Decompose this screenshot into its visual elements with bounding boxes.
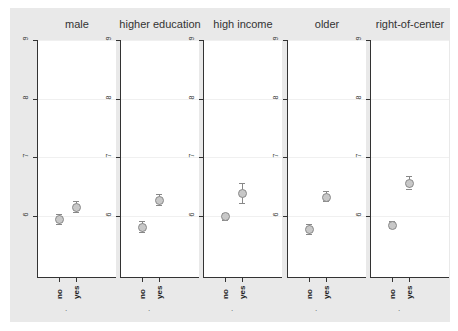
- data-point-marker: [72, 203, 81, 212]
- panel-right-of-center: right-of-center6789noyes.: [370, 40, 449, 278]
- y-tick: [199, 40, 203, 41]
- data-point-marker: [221, 212, 230, 221]
- panel-high-income: high income6789noyes.: [203, 40, 282, 278]
- x-tick: [409, 278, 410, 282]
- gridline: [371, 99, 449, 100]
- ci-cap: [156, 205, 162, 206]
- x-axis-title: .: [231, 304, 233, 313]
- y-tick-label: 6: [22, 210, 29, 220]
- y-tick-label: 9: [105, 34, 112, 44]
- y-tick: [366, 157, 370, 158]
- x-tick-label: no: [138, 289, 147, 299]
- y-tick-label: 8: [188, 92, 195, 102]
- y-tick: [283, 216, 287, 217]
- y-tick-label: 6: [188, 210, 195, 220]
- ci-cap: [73, 212, 79, 213]
- y-tick: [116, 40, 120, 41]
- y-tick-label: 9: [188, 34, 195, 44]
- x-tick-label: yes: [405, 286, 414, 299]
- gridline: [371, 216, 449, 217]
- x-tick-label: yes: [322, 286, 331, 299]
- y-tick: [199, 216, 203, 217]
- x-tick: [76, 278, 77, 282]
- ci-cap: [139, 232, 145, 233]
- y-tick-label: 9: [272, 34, 279, 44]
- x-tick-label: no: [305, 289, 314, 299]
- y-tick: [116, 216, 120, 217]
- y-tick: [116, 99, 120, 100]
- y-tick: [33, 40, 37, 41]
- x-axis-title: .: [65, 304, 67, 313]
- y-tick-label: 7: [188, 151, 195, 161]
- gridline: [204, 99, 282, 100]
- x-tick: [142, 278, 143, 282]
- y-tick-label: 7: [22, 151, 29, 161]
- x-tick-label: no: [55, 289, 64, 299]
- x-tick-label: no: [221, 289, 230, 299]
- y-tick: [199, 157, 203, 158]
- x-tick: [225, 278, 226, 282]
- x-tick: [309, 278, 310, 282]
- data-point-marker: [322, 193, 331, 202]
- x-tick: [392, 278, 393, 282]
- y-tick-label: 8: [105, 92, 112, 102]
- gridline: [371, 40, 449, 41]
- x-tick: [59, 278, 60, 282]
- y-tick: [366, 216, 370, 217]
- x-tick-label: yes: [72, 286, 81, 299]
- x-axis-title: .: [315, 304, 317, 313]
- ci-cap: [239, 183, 245, 184]
- x-axis-title: .: [148, 304, 150, 313]
- y-tick: [199, 99, 203, 100]
- y-tick-label: 6: [272, 210, 279, 220]
- panel-title: right-of-center: [351, 18, 458, 30]
- ci-cap: [239, 203, 245, 204]
- y-tick-label: 7: [272, 151, 279, 161]
- gridline: [204, 40, 282, 41]
- y-tick-label: 9: [22, 34, 29, 44]
- data-point-marker: [388, 221, 397, 230]
- x-tick-label: yes: [238, 286, 247, 299]
- y-tick: [116, 157, 120, 158]
- data-point-marker: [405, 179, 414, 188]
- data-point-marker: [155, 196, 164, 205]
- x-tick-label: no: [388, 289, 397, 299]
- x-tick: [242, 278, 243, 282]
- y-tick-label: 6: [355, 210, 362, 220]
- y-tick-label: 6: [105, 210, 112, 220]
- y-tick: [33, 99, 37, 100]
- x-tick: [159, 278, 160, 282]
- y-tick: [33, 216, 37, 217]
- y-tick: [283, 99, 287, 100]
- y-tick-label: 9: [355, 34, 362, 44]
- y-tick-label: 7: [105, 151, 112, 161]
- data-point-marker: [138, 223, 147, 232]
- gridline: [204, 216, 282, 217]
- x-tick-label: yes: [155, 286, 164, 299]
- x-axis-title: .: [398, 304, 400, 313]
- y-tick: [366, 40, 370, 41]
- ci-cap: [406, 176, 412, 177]
- gridline: [371, 157, 449, 158]
- x-tick: [326, 278, 327, 282]
- y-tick-label: 8: [355, 92, 362, 102]
- ci-cap: [406, 189, 412, 190]
- y-tick: [283, 40, 287, 41]
- gridline: [204, 157, 282, 158]
- ci-cap: [156, 194, 162, 195]
- y-tick-label: 8: [22, 92, 29, 102]
- data-point-marker: [55, 215, 64, 224]
- y-tick: [366, 99, 370, 100]
- y-tick: [33, 157, 37, 158]
- ci-cap: [73, 201, 79, 202]
- y-tick: [283, 157, 287, 158]
- y-tick-label: 7: [355, 151, 362, 161]
- y-tick-label: 8: [272, 92, 279, 102]
- data-point-marker: [305, 225, 314, 234]
- data-point-marker: [238, 189, 247, 198]
